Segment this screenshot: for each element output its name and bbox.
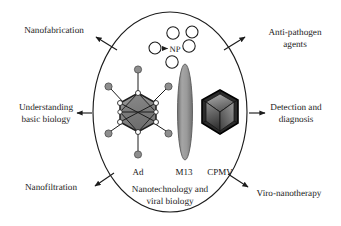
arrow-viro-nanotherapy — [228, 174, 248, 187]
nanoparticle-circle — [183, 40, 195, 52]
nanoparticle-circle — [149, 42, 161, 54]
adenovirus-fiber-knob — [105, 130, 112, 137]
label-anti-pathogen-agents-line2: agents — [283, 39, 307, 49]
arrow-nanofiltration — [95, 173, 114, 186]
nanoparticle-circle — [186, 26, 198, 38]
label-anti-pathogen-agents-line1: Anti-pathogen — [268, 27, 321, 37]
adenovirus-fiber-knob — [165, 130, 172, 137]
virus-nanotechnology-diagram: NP — [0, 0, 341, 226]
label-detection-and-diagnosis-line2: diagnosis — [279, 114, 314, 124]
nanoparticle-circle — [166, 56, 178, 68]
center-caption-line2: viral biology — [146, 196, 194, 206]
center-caption-line1: Nanotechnology and — [132, 184, 209, 194]
adenovirus-label: Ad — [133, 167, 144, 177]
label-viro-nanotherapy: Viro-nanotherapy — [257, 188, 322, 198]
adenovirus-fiber-knob — [105, 83, 112, 90]
label-detection-and-diagnosis-line1: Detection and — [270, 102, 322, 112]
m13-body — [178, 64, 193, 160]
adenovirus-fiber-knob — [134, 66, 141, 73]
nanoparticle-circle — [167, 27, 179, 39]
nanoparticle-label: NP — [170, 44, 181, 54]
m13-label: M13 — [175, 167, 193, 177]
figure-root: NP — [0, 0, 341, 226]
label-nanofabrication: Nanofabrication — [24, 25, 84, 35]
adenovirus-fiber-knob — [134, 151, 141, 158]
label-understanding-basic-biology-line2: basic biology — [21, 114, 71, 124]
label-understanding-basic-biology-line1: Understanding — [19, 102, 73, 112]
label-nanofiltration: Nanofiltration — [25, 182, 77, 192]
arrow-anti-pathogen-agents — [224, 37, 245, 50]
adenovirus-fiber-knob — [165, 83, 172, 90]
